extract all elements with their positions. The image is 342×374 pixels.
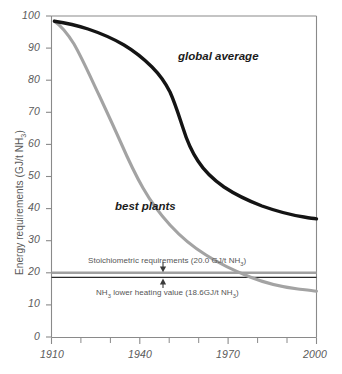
lhv-arrow-icon xyxy=(160,279,166,288)
y-axis-title-subscript: 3 xyxy=(19,134,28,138)
y-tick-label-70: 70 xyxy=(6,105,40,117)
y-tick-label-80: 80 xyxy=(6,73,40,85)
series-label-global-average: global average xyxy=(178,50,259,62)
y-axis-title-text: Energy requirements (GJ/t NH xyxy=(14,138,25,275)
x-tick-marks xyxy=(52,338,317,345)
x-tick-label-1970: 1970 xyxy=(205,348,251,360)
x-tick-label-1940: 1940 xyxy=(117,348,163,360)
y-tick-label-90: 90 xyxy=(6,41,40,53)
lhv-annotation-text: lower heating value (18.6GJ/t NH xyxy=(111,288,233,297)
y-axis-title: Energy requirements (GJ/t NH3) xyxy=(14,130,28,275)
y-tick-marks xyxy=(46,16,52,337)
y-axis-title-close: ) xyxy=(14,130,25,133)
stoichiometric-annotation-close: ) xyxy=(244,256,247,265)
stoichiometric-annotation-text: Stoichiometric requirements (20.0 GJ/t N… xyxy=(88,256,240,265)
y-tick-label-10: 10 xyxy=(6,297,40,309)
y-tick-label-100: 100 xyxy=(6,9,40,21)
series-label-best-plants: best plants xyxy=(115,200,176,212)
stoichiometric-annotation: Stoichiometric requirements (20.0 GJ/t N… xyxy=(88,256,246,267)
energy-requirements-chart: 100 90 80 70 60 50 40 30 20 10 0 1910 19… xyxy=(0,0,342,374)
x-tick-label-2000: 2000 xyxy=(292,348,338,360)
lhv-annotation-prefix: NH xyxy=(96,288,108,297)
lhv-annotation: NH3 lower heating value (18.6GJ/t NH3) xyxy=(96,288,239,299)
y-tick-label-0: 0 xyxy=(6,330,40,342)
x-tick-label-1910: 1910 xyxy=(29,348,75,360)
lhv-annotation-close: ) xyxy=(236,288,239,297)
chart-canvas xyxy=(0,0,342,374)
